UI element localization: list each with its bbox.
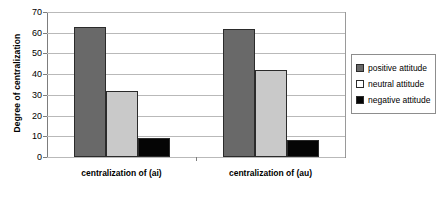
light-gray-swatch-icon <box>356 80 364 88</box>
legend-label-negative: negative attitude <box>368 95 430 105</box>
legend: positive attitude neutral attitude negat… <box>351 54 436 114</box>
legend-label-neutral: neutral attitude <box>368 79 424 89</box>
y-tick-label: 50 <box>2 48 47 58</box>
y-tick-label: 0 <box>2 152 47 162</box>
y-tick-label: 60 <box>2 28 47 38</box>
legend-item-neutral: neutral attitude <box>356 76 430 92</box>
category-tick <box>196 157 197 161</box>
bar <box>255 70 287 157</box>
bar <box>138 138 170 157</box>
bar-group <box>223 12 319 157</box>
black-swatch-icon <box>356 96 364 104</box>
legend-item-negative: negative attitude <box>356 92 430 108</box>
bar <box>106 91 138 157</box>
y-tick-label: 40 <box>2 69 47 79</box>
category-label: centralization of (au) <box>196 168 345 178</box>
category-label: centralization of (ai) <box>47 168 196 178</box>
bar <box>287 140 319 157</box>
y-tick-label: 20 <box>2 111 47 121</box>
bar-series-container <box>47 12 345 157</box>
dark-gray-swatch-icon <box>356 64 364 72</box>
legend-item-positive: positive attitude <box>356 60 430 76</box>
bar-chart: Degree of centralization 010203040506070… <box>0 0 447 202</box>
bar <box>74 27 106 158</box>
bar <box>223 29 255 157</box>
y-tick-label: 10 <box>2 131 47 141</box>
legend-label-positive: positive attitude <box>368 63 427 73</box>
plot-area: 010203040506070 <box>47 12 346 158</box>
bar-group <box>74 12 170 157</box>
y-tick-label: 70 <box>2 7 47 17</box>
y-tick-label: 30 <box>2 90 47 100</box>
